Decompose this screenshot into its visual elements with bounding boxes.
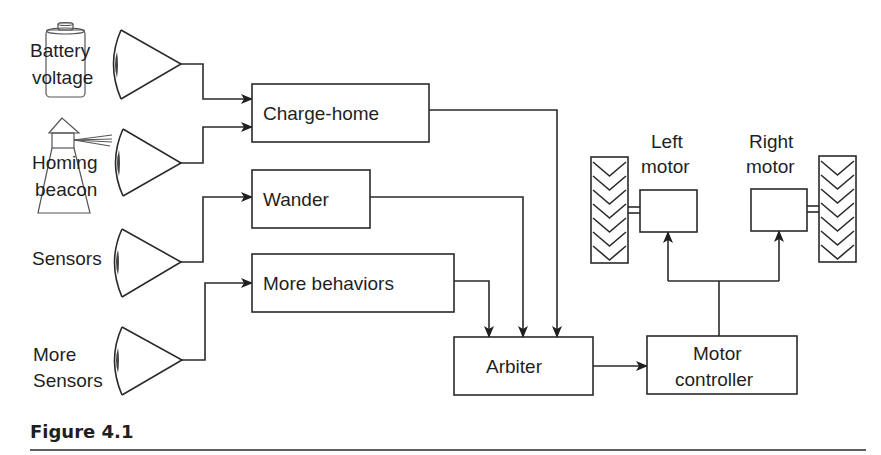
motor-controller-label-2: controller xyxy=(675,369,754,390)
motor-controller-box: Motor controller xyxy=(647,336,797,394)
sensor-label-more-sensors-1: More xyxy=(33,344,76,365)
behavior-label-more-behaviors: More behaviors xyxy=(263,273,394,294)
behavior-label-wander: Wander xyxy=(263,189,329,210)
figure: Battery voltage Homing beacon Sensors Mo… xyxy=(0,0,881,455)
behavior-label-charge-home: Charge-home xyxy=(263,103,379,124)
eye-icon-battery xyxy=(114,30,182,99)
left-motor-box xyxy=(640,190,697,232)
behavior-charge-home: Charge-home xyxy=(252,84,429,142)
connector-more-behaviors-to-arbiter xyxy=(454,281,489,337)
connector-beacon-to-charge-home xyxy=(181,127,252,163)
sensor-label-beacon-2: beacon xyxy=(35,179,97,200)
figure-caption: Figure 4.1 xyxy=(30,421,133,442)
sensor-label-battery-2: voltage xyxy=(32,67,93,88)
left-motor-label-2: motor xyxy=(641,156,690,177)
behavior-more-behaviors: More behaviors xyxy=(252,254,454,312)
right-motor-box xyxy=(751,189,807,231)
right-motor-label-2: motor xyxy=(746,156,795,177)
sensor-label-battery-1: Battery xyxy=(30,40,91,61)
eye-icon-sensors xyxy=(115,229,182,297)
arbiter-label: Arbiter xyxy=(486,356,543,377)
connector-battery-to-charge-home xyxy=(181,64,252,99)
sensor-label-more-sensors-2: Sensors xyxy=(33,370,103,391)
sensor-label-sensors: Sensors xyxy=(32,248,102,269)
eye-icon-more-sensors xyxy=(115,327,183,395)
left-motor-label-1: Left xyxy=(651,131,683,152)
connector-more-sensors-to-more-behaviors xyxy=(182,283,252,360)
eye-icon-beacon xyxy=(116,129,182,196)
connector-sensors-to-wander xyxy=(181,197,252,262)
left-wheel-icon xyxy=(591,157,640,263)
right-wheel-icon xyxy=(807,156,856,262)
right-motor-label-1: Right xyxy=(749,131,794,152)
arbiter-box: Arbiter xyxy=(454,337,593,395)
sensor-label-beacon-1: Homing xyxy=(32,152,97,173)
motor-controller-label-1: Motor xyxy=(693,343,742,364)
behavior-wander: Wander xyxy=(252,170,370,228)
